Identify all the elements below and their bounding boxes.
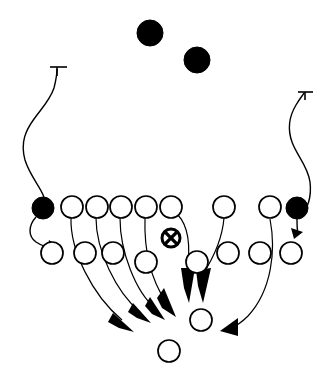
front-7-icon[interactable] [259,196,281,218]
back-1-icon[interactable] [190,309,212,331]
second-2-icon[interactable] [74,242,96,264]
second-6-icon[interactable] [217,242,239,264]
second-8-icon[interactable] [280,242,302,264]
front-5-icon[interactable] [160,196,182,218]
edge-defender-left-icon[interactable] [32,197,54,219]
front-1-icon[interactable] [61,196,83,218]
football-play-diagram [0,0,332,384]
second-1-icon[interactable] [41,242,63,264]
diagram-canvas [0,0,332,384]
front-4-icon[interactable] [135,196,157,218]
second-7-icon[interactable] [249,242,271,264]
second-3-icon[interactable] [102,242,124,264]
front-3-icon[interactable] [110,196,132,218]
back-2-icon[interactable] [158,340,180,362]
front-6-icon[interactable] [213,196,235,218]
deep-defender-right-icon[interactable] [184,47,210,73]
second-5-icon[interactable] [186,251,208,273]
edge-defender-right-icon[interactable] [286,197,308,219]
front-2-icon[interactable] [86,196,108,218]
deep-defender-left-icon[interactable] [137,20,163,46]
second-4-icon[interactable] [135,251,157,273]
ball-carrier-icon[interactable] [162,229,180,247]
